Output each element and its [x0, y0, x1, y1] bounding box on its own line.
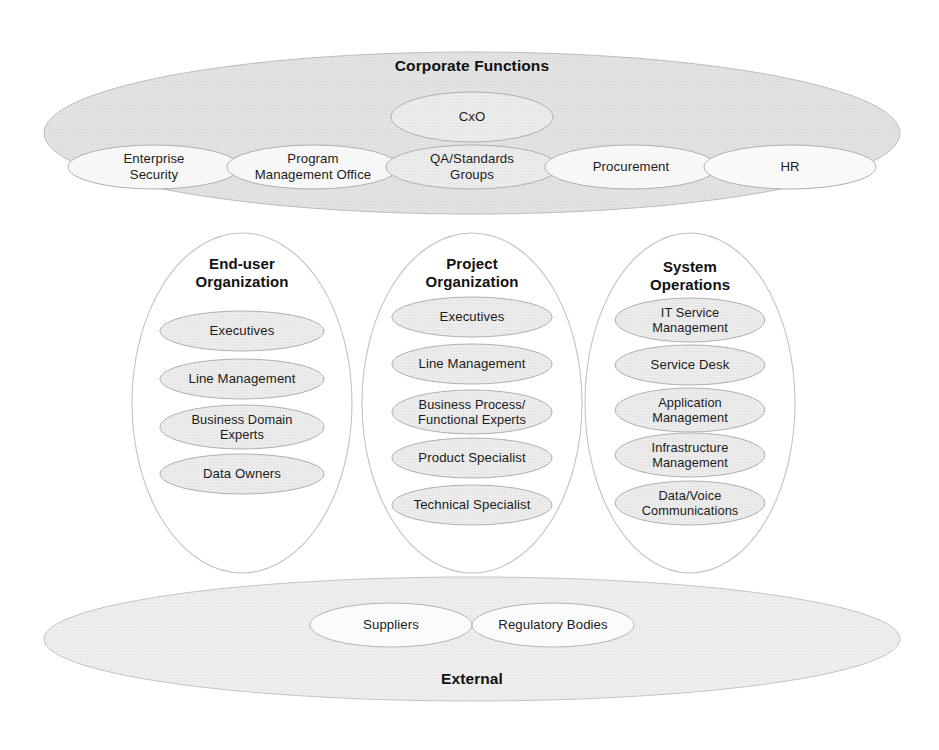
role-project-4[interactable] — [392, 485, 552, 525]
role-end-user-2[interactable] — [160, 405, 324, 449]
role-end-user-3[interactable] — [160, 454, 324, 494]
node-cxo[interactable] — [391, 92, 553, 142]
role-project-3[interactable] — [392, 438, 552, 478]
node-hr[interactable] — [704, 145, 876, 189]
node-enterprise-security[interactable] — [68, 145, 240, 189]
node-procurement[interactable] — [545, 145, 717, 189]
org-circle-end-user[interactable] — [132, 233, 352, 573]
role-end-user-1[interactable] — [160, 359, 324, 399]
node-suppliers[interactable] — [310, 603, 472, 647]
node-program-management-office[interactable] — [227, 145, 399, 189]
role-sysops-2[interactable] — [615, 388, 765, 432]
role-sysops-0[interactable] — [615, 298, 765, 342]
role-end-user-0[interactable] — [160, 311, 324, 351]
role-project-0[interactable] — [392, 297, 552, 337]
node-regulatory-bodies[interactable] — [472, 603, 634, 647]
role-sysops-3[interactable] — [615, 433, 765, 477]
diagram-root: Corporate Functions CxO Enterprise Secur… — [0, 0, 939, 750]
role-project-2[interactable] — [392, 390, 552, 434]
role-sysops-1[interactable] — [615, 345, 765, 385]
external-band[interactable] — [44, 577, 900, 701]
diagram-canvas — [0, 0, 939, 750]
role-project-1[interactable] — [392, 344, 552, 384]
role-sysops-4[interactable] — [615, 481, 765, 525]
node-qa-standards-groups[interactable] — [386, 145, 558, 189]
